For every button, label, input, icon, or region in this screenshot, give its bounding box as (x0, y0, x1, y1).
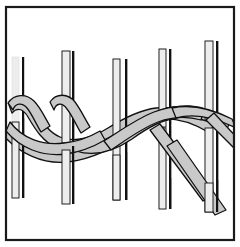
warp-strip-dark (216, 41, 218, 117)
warp-stake-2-lower-front (62, 146, 74, 204)
warp-strip-light (205, 183, 213, 212)
illustration-figure: Twined basketry weave illustration Line-… (0, 0, 240, 247)
warp-strip-dark (125, 152, 127, 200)
warp-strip-dark (22, 118, 24, 198)
warp-strip-dark (169, 178, 171, 209)
warp-strip-dark (72, 51, 74, 141)
warp-stake-5-front (205, 41, 218, 119)
weave-diagram: Twined basketry weave illustration Line-… (0, 0, 240, 247)
warp-strip-light (113, 155, 120, 200)
warp-stake-3-lower-front (113, 152, 127, 200)
warp-strip-light (62, 150, 70, 204)
warp-strip-dark (72, 146, 74, 204)
warp-strip-light (205, 41, 213, 119)
warp-strip-dark (216, 180, 218, 212)
